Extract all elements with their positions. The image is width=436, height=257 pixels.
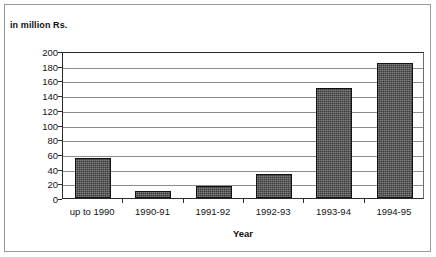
y-axis-tick-label: 60 (12, 149, 58, 160)
x-axis-tick-mark (364, 199, 365, 203)
bar-slot (304, 53, 364, 198)
bar-chart-figure: in million Rs. 0204060801001201401601802… (0, 0, 436, 257)
y-axis-tick-label: 80 (12, 135, 58, 146)
x-axis-tick-marks (62, 199, 424, 204)
x-axis-tick-label: 1993-94 (316, 206, 351, 217)
bar[interactable] (377, 63, 413, 198)
y-axis-tick-label: 120 (12, 105, 58, 116)
chart-title: in million Rs. (10, 20, 67, 30)
x-axis-tick-label: 1992-93 (256, 206, 291, 217)
bar[interactable] (256, 174, 292, 198)
x-axis-tick-mark (243, 199, 244, 203)
bar-slot (123, 53, 183, 198)
plot-area (62, 52, 424, 199)
y-axis-tick-label: 200 (12, 47, 58, 58)
y-axis-tick-label: 0 (12, 194, 58, 205)
x-axis-title: Year (62, 228, 424, 239)
y-axis-tick-labels: 020406080100120140160180200 (8, 52, 58, 199)
y-axis-tick-label: 180 (12, 61, 58, 72)
x-axis-tick-labels: up to 19901990-911991-921992-931993-9419… (62, 206, 424, 222)
bar-slot (365, 53, 425, 198)
bar-slot (184, 53, 244, 198)
x-axis-tick-label: 1994-95 (376, 206, 411, 217)
bar[interactable] (135, 191, 171, 198)
bar[interactable] (196, 186, 232, 198)
x-axis-tick-mark (183, 199, 184, 203)
x-axis-tick-mark (303, 199, 304, 203)
x-axis-tick-label: 1991-92 (195, 206, 230, 217)
y-axis-tick-label: 140 (12, 91, 58, 102)
y-axis-tick-label: 160 (12, 76, 58, 87)
x-axis-tick-label: 1990-91 (135, 206, 170, 217)
bar-slot (244, 53, 304, 198)
x-axis-tick-mark (122, 199, 123, 203)
y-axis-tick-label: 20 (12, 179, 58, 190)
y-axis-tick-label: 40 (12, 164, 58, 175)
y-axis-tick-label: 100 (12, 120, 58, 131)
bar[interactable] (316, 88, 352, 198)
x-axis-tick-label: up to 1990 (70, 206, 115, 217)
bar[interactable] (75, 158, 111, 198)
bar-slot (63, 53, 123, 198)
